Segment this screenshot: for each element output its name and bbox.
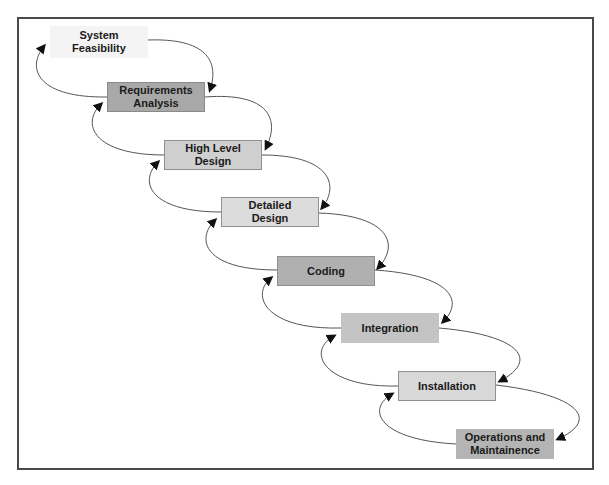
stage-label: System Feasibility xyxy=(72,29,126,55)
stage-label: Operations and Maintainence xyxy=(465,431,546,457)
stage-label: Detailed Design xyxy=(249,199,292,225)
stage-label: Installation xyxy=(418,380,476,393)
stage-label: High Level Design xyxy=(185,142,241,168)
stage-installation: Installation xyxy=(398,371,496,401)
stage-coding: Coding xyxy=(277,256,375,286)
stage-requirements-analysis: Requirements Analysis xyxy=(107,82,205,112)
stage-label: Requirements Analysis xyxy=(119,84,192,110)
stage-operations-maintainence: Operations and Maintainence xyxy=(456,429,554,459)
stage-system-feasibility: System Feasibility xyxy=(50,26,148,58)
stage-label: Integration xyxy=(362,322,419,335)
flow-arrows xyxy=(0,0,609,485)
stage-label: Coding xyxy=(307,265,345,278)
stage-high-level-design: High Level Design xyxy=(164,140,262,170)
stage-detailed-design: Detailed Design xyxy=(221,197,319,227)
stage-integration: Integration xyxy=(341,313,439,343)
